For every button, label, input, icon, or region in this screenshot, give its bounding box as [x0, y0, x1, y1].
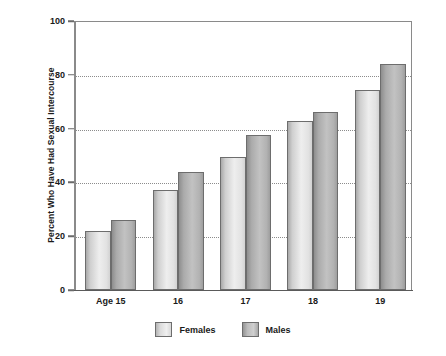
bar-group	[153, 21, 204, 290]
legend-item-males[interactable]: Males	[242, 322, 291, 337]
x-tick-label: 19	[375, 296, 385, 306]
bar-group	[287, 21, 338, 290]
legend-label-females: Females	[179, 325, 215, 335]
y-tick-label-20: 20	[33, 231, 65, 241]
y-tick-mark-40	[68, 182, 74, 184]
y-tick-label-60: 60	[33, 124, 65, 134]
x-tick-label: 17	[240, 296, 250, 306]
y-tick-label-40: 40	[33, 177, 65, 187]
males-swatch-icon	[242, 322, 259, 337]
y-tick-mark-20	[68, 235, 74, 237]
y-axis-title: Percent Who Have Had Sexual Intercourse	[46, 30, 56, 280]
bar[interactable]	[220, 157, 246, 290]
bar[interactable]	[313, 112, 339, 290]
y-tick-label-0: 0	[33, 285, 65, 295]
legend-label-males: Males	[266, 325, 291, 335]
bar-chart: Percent Who Have Had Sexual Intercourse …	[0, 0, 446, 356]
bar[interactable]	[111, 220, 137, 290]
y-tick-mark-80	[68, 74, 74, 76]
x-tick-label: 16	[173, 296, 183, 306]
bar[interactable]	[380, 64, 406, 290]
bar[interactable]	[85, 231, 111, 290]
bar-group	[220, 21, 271, 290]
bar-group	[355, 21, 406, 290]
x-tick-label: 18	[308, 296, 318, 306]
bar[interactable]	[178, 172, 204, 290]
bar[interactable]	[246, 135, 272, 290]
bar[interactable]	[287, 121, 313, 290]
y-tick-mark-100	[68, 20, 74, 22]
y-tick-label-80: 80	[33, 70, 65, 80]
x-tick-label: Age 15	[96, 296, 126, 306]
females-swatch-icon	[155, 322, 172, 337]
legend-item-females[interactable]: Females	[155, 322, 215, 337]
bars-layer	[75, 21, 412, 290]
y-tick-mark-60	[68, 128, 74, 130]
bar[interactable]	[355, 90, 381, 290]
bar[interactable]	[153, 190, 179, 290]
chart-legend: Females Males	[0, 322, 446, 337]
y-tick-label-100: 100	[33, 16, 65, 26]
bar-group	[85, 21, 136, 290]
y-tick-mark-0	[68, 289, 74, 291]
